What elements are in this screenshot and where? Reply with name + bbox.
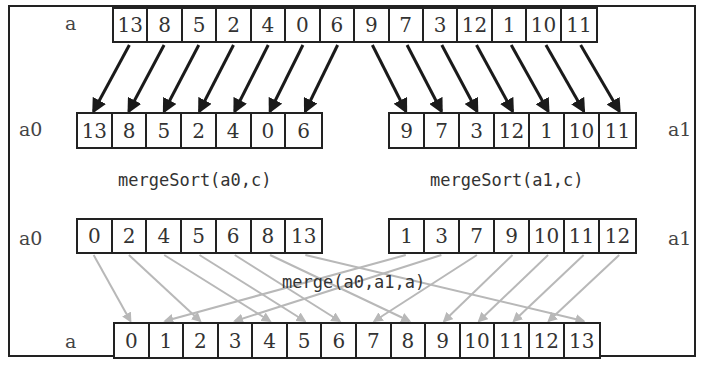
split-a1-cell: 7 [425, 114, 460, 147]
merge-arrow-icon [549, 255, 620, 321]
split-a1-cell: 10 [565, 114, 600, 147]
split-arrow-icon [511, 45, 548, 111]
input-cell: 8 [148, 9, 182, 41]
merge-arrow-icon [129, 255, 200, 321]
label-sorted-a1: a1 [668, 227, 691, 249]
sorted-a0-cell: 2 [113, 220, 148, 252]
output-cell: 7 [357, 324, 392, 357]
array-sorted-a0: 02456813 [76, 218, 323, 254]
split-arrow-icon [477, 45, 513, 111]
split-arrow-icon [372, 45, 405, 111]
split-a1-cell: 12 [495, 114, 530, 147]
split-a0-cell: 5 [147, 114, 182, 147]
split-arrow-icon [129, 45, 164, 111]
split-a0-cell: 2 [182, 114, 217, 147]
arrows-layer [0, 0, 702, 366]
sorted-a1-cell: 9 [495, 220, 530, 252]
input-cell: 12 [458, 9, 492, 41]
output-cell: 5 [288, 324, 323, 357]
split-arrow-icon [546, 45, 584, 111]
split-arrow-icon [581, 45, 620, 111]
input-cell: 4 [252, 9, 286, 41]
label-output-a: a [65, 330, 76, 352]
split-a1-cell: 3 [460, 114, 495, 147]
array-split-a0: 13852406 [76, 112, 323, 149]
split-arrow-icon [305, 45, 337, 111]
caption-merge: merge(a0,a1,a) [282, 272, 425, 292]
array-input-a: 138524069731211011 [112, 7, 598, 43]
input-cell: 2 [217, 9, 251, 41]
input-cell: 10 [527, 9, 561, 41]
label-split-a0: a0 [19, 118, 42, 140]
output-cell: 3 [219, 324, 254, 357]
caption-mergesort-a0: mergeSort(a0,c) [118, 170, 272, 190]
merge-arrow-icon [514, 255, 584, 321]
split-a1-cell: 11 [600, 114, 635, 147]
split-a0-cell: 8 [113, 114, 148, 147]
input-cell: 3 [424, 9, 458, 41]
input-cell: 1 [493, 9, 527, 41]
output-cell: 11 [495, 324, 530, 357]
input-cell: 6 [321, 9, 355, 41]
split-a0-cell: 0 [252, 114, 287, 147]
output-cell: 2 [184, 324, 219, 357]
sorted-a0-cell: 6 [217, 220, 252, 252]
sorted-a1-cell: 10 [530, 220, 565, 252]
sorted-a0-cell: 13 [286, 220, 321, 252]
sorted-a0-cell: 4 [147, 220, 182, 252]
sorted-a0-cell: 8 [252, 220, 287, 252]
array-split-a1: 9731211011 [388, 112, 637, 149]
label-split-a1: a1 [668, 118, 691, 140]
split-arrow-icon [200, 45, 234, 111]
sorted-a1-cell: 7 [460, 220, 495, 252]
merge-arrow-icon [444, 255, 512, 321]
output-cell: 6 [322, 324, 357, 357]
sorted-a1-cell: 3 [425, 220, 460, 252]
output-cell: 10 [461, 324, 496, 357]
split-arrows [94, 45, 620, 111]
sorted-a0-cell: 0 [78, 220, 113, 252]
split-arrow-icon [270, 45, 303, 111]
sorted-a1-cell: 11 [565, 220, 600, 252]
label-sorted-a0: a0 [19, 227, 42, 249]
label-input-a: a [65, 12, 76, 34]
split-arrow-icon [442, 45, 477, 111]
input-cell: 5 [183, 9, 217, 41]
array-output-a: 012345678910111213 [113, 322, 601, 359]
split-a1-cell: 1 [530, 114, 565, 147]
output-cell: 4 [253, 324, 288, 357]
split-a0-cell: 13 [78, 114, 113, 147]
split-a0-cell: 4 [217, 114, 252, 147]
output-cell: 8 [392, 324, 427, 357]
input-cell: 0 [286, 9, 320, 41]
array-sorted-a1: 1379101112 [388, 218, 637, 254]
input-cell: 11 [562, 9, 596, 41]
split-arrow-icon [164, 45, 199, 111]
merge-arrow-icon [94, 255, 131, 321]
split-a1-cell: 9 [390, 114, 425, 147]
input-cell: 7 [390, 9, 424, 41]
split-arrow-icon [235, 45, 268, 111]
sorted-a1-cell: 12 [600, 220, 635, 252]
split-arrow-icon [407, 45, 441, 111]
output-cell: 1 [150, 324, 185, 357]
output-cell: 0 [115, 324, 150, 357]
output-cell: 13 [565, 324, 600, 357]
input-cell: 13 [114, 9, 148, 41]
input-cell: 9 [355, 9, 389, 41]
sorted-a0-cell: 5 [182, 220, 217, 252]
output-cell: 9 [426, 324, 461, 357]
caption-mergesort-a1: mergeSort(a1,c) [430, 170, 584, 190]
output-cell: 12 [530, 324, 565, 357]
split-arrow-icon [94, 45, 130, 111]
sorted-a1-cell: 1 [390, 220, 425, 252]
split-a0-cell: 6 [286, 114, 321, 147]
